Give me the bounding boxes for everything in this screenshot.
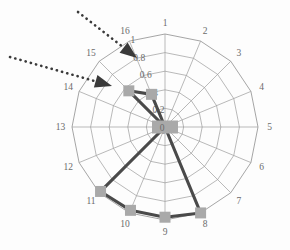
- series-marker: [195, 207, 206, 218]
- annotation-arrowhead: [94, 75, 112, 88]
- annotation-arrows: [10, 12, 137, 88]
- angular-axis-label: 14: [64, 82, 74, 92]
- grid-spoke: [165, 61, 231, 127]
- annotation-dotted-line: [10, 57, 96, 81]
- series-markers: 0: [95, 85, 206, 222]
- angular-axis-label: 1: [163, 18, 168, 28]
- angular-axis-label: 3: [237, 48, 242, 58]
- polar-chart-figure: 00.20.40.60.81 12345678910111213141516 0: [0, 0, 290, 250]
- radial-origin-label: 0: [160, 123, 165, 133]
- angular-axis-label: 4: [259, 82, 264, 92]
- angular-axis-label: 7: [237, 196, 242, 206]
- radial-tick-label: 1: [130, 35, 135, 45]
- series-marker: [160, 212, 171, 223]
- radial-tick-label: 0.8: [133, 53, 145, 63]
- polar-chart-canvas: 00.20.40.60.81 12345678910111213141516 0: [0, 0, 290, 250]
- angular-axis-label: 13: [56, 122, 66, 132]
- angular-axis-label: 8: [203, 219, 208, 229]
- annotation-dotted-line: [78, 12, 124, 48]
- angular-axis-label: 5: [267, 122, 272, 132]
- series-marker: [125, 205, 136, 216]
- series-marker-origin: [152, 121, 178, 134]
- angular-axis-label: 6: [259, 162, 264, 172]
- angular-axis-label: 16: [120, 26, 130, 36]
- series-marker: [123, 85, 134, 96]
- series-marker: [95, 186, 106, 197]
- series-marker: [146, 89, 157, 100]
- angular-axis-label: 12: [64, 162, 74, 172]
- grid-spoke: [165, 127, 231, 193]
- angular-axis-label: 15: [86, 48, 96, 58]
- angular-axis-label: 11: [86, 196, 95, 206]
- radial-tick-label: 0.6: [140, 70, 152, 80]
- angular-axis-label: 9: [163, 227, 168, 237]
- angular-axis-label: 2: [203, 26, 208, 36]
- angular-axis-label: 10: [120, 219, 130, 229]
